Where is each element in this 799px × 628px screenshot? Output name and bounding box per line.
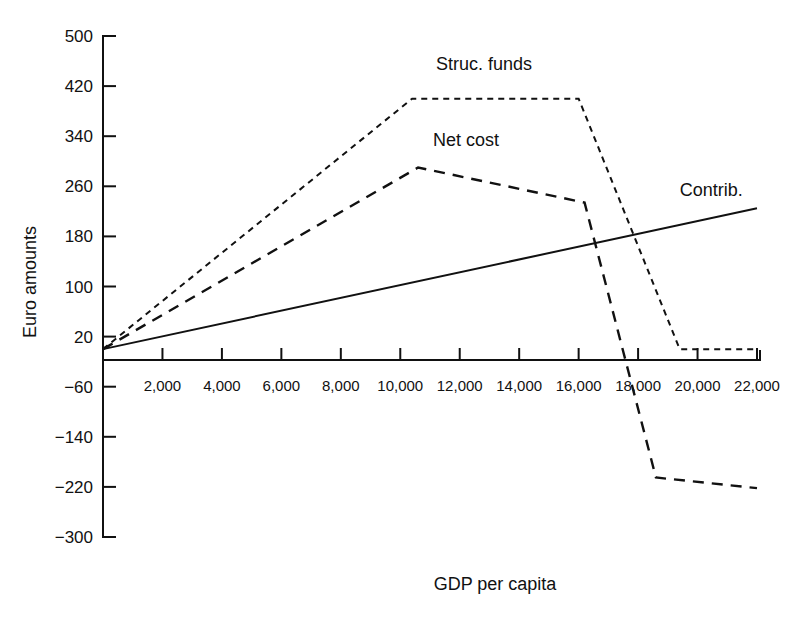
x-tick-label: 12,000 — [437, 377, 483, 394]
x-tick-label: 8,000 — [322, 377, 360, 394]
x-axis-title: GDP per capita — [434, 574, 558, 594]
y-tick-label: 260 — [65, 177, 93, 196]
series-label-struc-funds: Struc. funds — [436, 54, 532, 74]
y-tick-label: −60 — [64, 378, 93, 397]
chart-svg: 50042034026018010020−60−140−220−300 2,00… — [0, 0, 799, 628]
y-axis-title: Euro amounts — [20, 226, 40, 338]
y-axis-tick-labels: 50042034026018010020−60−140−220−300 — [55, 27, 93, 547]
x-tick-label: 2,000 — [144, 377, 182, 394]
y-axis-ticks — [103, 36, 116, 537]
y-tick-label: 20 — [74, 328, 93, 347]
series-path-struc-funds — [103, 99, 757, 350]
y-tick-label: 340 — [65, 127, 93, 146]
x-tick-label: 14,000 — [496, 377, 542, 394]
series-label-contrib: Contrib. — [680, 180, 743, 200]
y-tick-label: 180 — [65, 227, 93, 246]
x-tick-label: 16,000 — [556, 377, 602, 394]
x-tick-label: 20,000 — [675, 377, 721, 394]
series-label-net-cost: Net cost — [433, 130, 499, 150]
x-tick-label: 4,000 — [203, 377, 241, 394]
y-tick-label: −300 — [55, 528, 93, 547]
x-axis-tick-labels: 2,0004,0006,0008,00010,00012,00014,00016… — [144, 377, 780, 394]
y-tick-label: −140 — [55, 428, 93, 447]
x-tick-label: 6,000 — [263, 377, 301, 394]
y-tick-label: −220 — [55, 478, 93, 497]
x-tick-label: 10,000 — [377, 377, 423, 394]
x-axis-line — [103, 351, 760, 360]
y-tick-label: 420 — [65, 77, 93, 96]
series-path-contrib — [103, 208, 757, 349]
x-axis-ticks — [162, 348, 757, 360]
chart-container: 50042034026018010020−60−140−220−300 2,00… — [0, 0, 799, 628]
y-tick-label: 100 — [65, 278, 93, 297]
x-tick-label: 22,000 — [734, 377, 780, 394]
x-tick-label: 18,000 — [615, 377, 661, 394]
y-tick-label: 500 — [65, 27, 93, 46]
series-group — [103, 99, 757, 489]
